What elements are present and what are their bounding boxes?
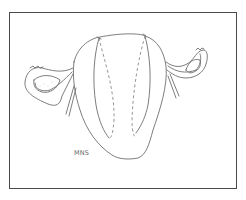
left-inner-line	[94, 38, 109, 138]
artist-signature: MNS	[74, 149, 89, 157]
left-ovary	[34, 76, 60, 93]
right-inner-line	[136, 36, 150, 133]
left-tube	[25, 68, 73, 106]
left-dashed-line	[99, 38, 114, 138]
right-tube	[166, 50, 207, 78]
right-tube-inner	[168, 54, 201, 72]
uterus-outline	[73, 34, 166, 159]
uterus-illustration	[0, 0, 246, 200]
